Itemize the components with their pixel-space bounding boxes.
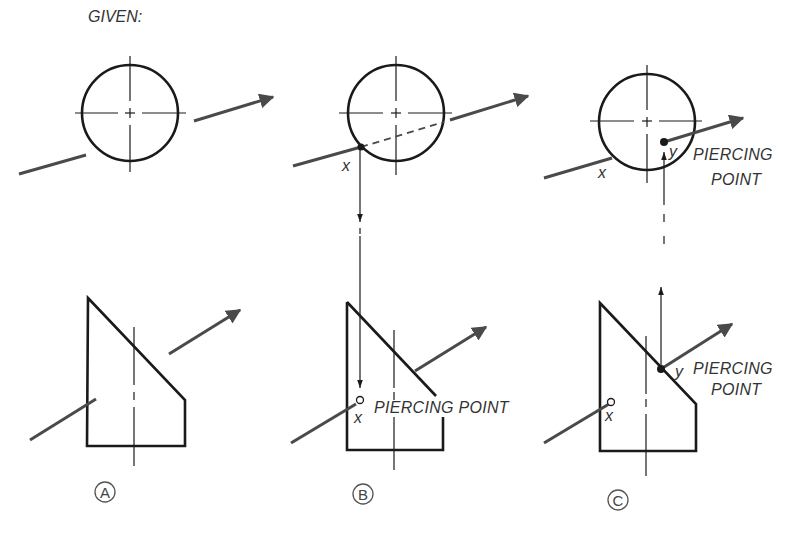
point-x-label: x xyxy=(604,407,614,424)
solid-front-view xyxy=(347,302,443,450)
line-arrow-right xyxy=(450,96,528,120)
point-x-label: x xyxy=(353,409,363,426)
point-x-label: x xyxy=(597,164,607,181)
panel-b-top-view: x xyxy=(293,56,528,234)
panel-b-label: B xyxy=(353,484,373,504)
piercing-point-diagram: GIVEN: A xyxy=(0,0,788,533)
point-x-label: x xyxy=(341,157,351,174)
panel-c-front-view: x y PIERCING POINT xyxy=(544,236,773,476)
point-x-open-marker xyxy=(357,397,364,404)
line-segment-left xyxy=(19,155,86,174)
piercing-point-annotation-line1: PIERCING xyxy=(693,360,773,377)
panel-a-front-view xyxy=(30,298,240,466)
svg-text:C: C xyxy=(613,492,624,509)
point-y-marker xyxy=(657,365,665,373)
piercing-point-annotation-line2: POINT xyxy=(711,171,762,188)
svg-text:A: A xyxy=(100,484,110,501)
piercing-point-annotation-line2: POINT xyxy=(711,381,762,398)
piercing-point-annotation-line1: PIERCING xyxy=(693,146,773,163)
panel-c-label: C xyxy=(608,490,628,510)
given-title: GIVEN: xyxy=(88,8,142,25)
panel-a: A xyxy=(19,56,273,502)
point-x-marker xyxy=(358,144,365,151)
svg-text:B: B xyxy=(358,486,368,503)
point-y-label: y xyxy=(668,143,678,160)
line-visible-segment xyxy=(293,147,361,166)
solid-front-view xyxy=(87,298,185,446)
panel-b: x x PIERCING POINT B xyxy=(291,56,528,504)
point-y-label: y xyxy=(674,363,684,380)
piercing-point-annotation: PIERCING POINT xyxy=(374,399,510,416)
line-arrow-right xyxy=(169,310,240,354)
panel-a-top-view xyxy=(19,56,273,174)
panel-c-top-view: x y PIERCING POINT xyxy=(544,65,773,222)
line-arrow-right xyxy=(194,97,273,121)
panel-c: x y PIERCING POINT x y PIERCING POINT xyxy=(544,65,773,510)
point-y-marker xyxy=(660,138,668,146)
line-arrow-right xyxy=(415,327,486,371)
panel-a-label: A xyxy=(95,482,115,502)
panel-b-front-view: x PIERCING POINT xyxy=(291,236,510,470)
line-hidden-segment xyxy=(361,122,444,147)
point-x-open-marker xyxy=(608,399,615,406)
